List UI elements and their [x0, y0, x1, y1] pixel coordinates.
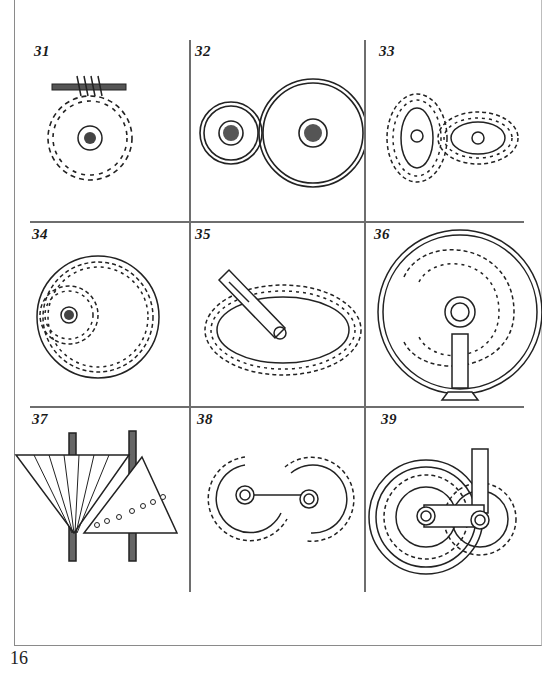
figure-39: 39	[364, 407, 542, 592]
figure-31: 31	[14, 40, 189, 221]
elliptical-gears-icon	[364, 40, 542, 221]
figure-34: 34	[14, 222, 189, 406]
segmented-ring-gear-icon	[364, 407, 542, 592]
internal-ring-gear-icon	[14, 222, 189, 406]
figure-32: 32	[189, 40, 364, 221]
cone-drum-icon	[14, 407, 189, 592]
sector-gears-link-icon	[189, 407, 364, 592]
elliptical-gear-arm-icon	[189, 222, 364, 406]
friction-wheels-icon	[189, 40, 364, 221]
page-number: 16	[10, 648, 28, 669]
figure-33: 33	[364, 40, 542, 221]
figure-38: 38	[189, 407, 364, 592]
spiral-gear-track-icon	[364, 222, 542, 406]
figure-37: 37	[14, 407, 189, 592]
figure-36: 36	[364, 222, 542, 406]
figure-35: 35	[189, 222, 364, 406]
worm-gear-icon	[14, 40, 189, 221]
